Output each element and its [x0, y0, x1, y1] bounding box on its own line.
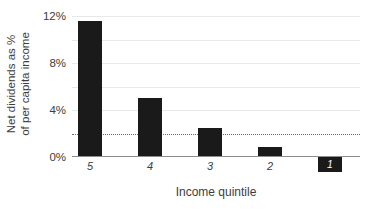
chart-figure: Net dividends as % of per capita income …	[0, 0, 368, 215]
y-axis-tick-labels: 12% 8% 4% 0%	[20, 16, 66, 157]
y-tick-label-4: 4%	[22, 105, 66, 117]
x-tick-label-5: 5	[70, 160, 110, 172]
bar-quintile-3[interactable]	[198, 128, 222, 156]
y-tick-label-8: 8%	[22, 58, 66, 70]
bar-series: 1	[72, 16, 360, 157]
y-axis-title-line1: Net dividends as %	[5, 35, 17, 133]
x-axis-tick-labels: 5 4 3 2	[72, 160, 360, 176]
x-tick-label-4: 4	[130, 160, 170, 172]
bar-quintile-4[interactable]	[138, 98, 162, 157]
y-tick-label-0: 0%	[22, 152, 66, 164]
x-axis-title: Income quintile	[72, 185, 360, 199]
x-tick-label-3: 3	[190, 160, 230, 172]
bar-quintile-5[interactable]	[78, 21, 102, 157]
y-tick-label-12: 12%	[22, 11, 66, 23]
x-tick-label-2: 2	[250, 160, 290, 172]
bar-quintile-2[interactable]	[258, 147, 282, 157]
